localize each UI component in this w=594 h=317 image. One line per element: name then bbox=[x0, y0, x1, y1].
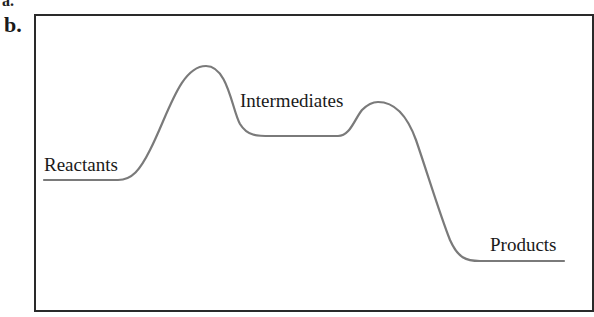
intermediates-label: Intermediates bbox=[240, 90, 343, 112]
reactants-label: Reactants bbox=[44, 154, 118, 176]
products-label: Products bbox=[490, 234, 557, 256]
